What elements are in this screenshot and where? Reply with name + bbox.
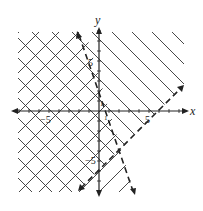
y-axis-arrow-up-icon: [96, 27, 102, 34]
line2-arrow-top-icon: [177, 85, 184, 92]
line1-arrow-bottom-icon: [130, 188, 136, 195]
y-axis-label: y: [94, 13, 101, 27]
boundary-line-2: [81, 88, 181, 188]
y-tick-label-one: 1: [100, 100, 104, 108]
y-tick-label-neg5: −5: [85, 155, 96, 166]
y-tick-label-pos5: 5: [88, 57, 93, 68]
x-axis-arrow-left-icon: [11, 108, 18, 114]
x-tick-label-one: 1: [104, 114, 108, 122]
x-axis-label: x: [189, 104, 196, 118]
x-tick-label-neg5: −5: [40, 114, 51, 125]
inequality-graph: x y −5 5 1 5 −5 1: [0, 0, 203, 211]
x-tick-label-pos5: 5: [145, 114, 150, 125]
x-axis-arrow-right-icon: [182, 108, 189, 114]
